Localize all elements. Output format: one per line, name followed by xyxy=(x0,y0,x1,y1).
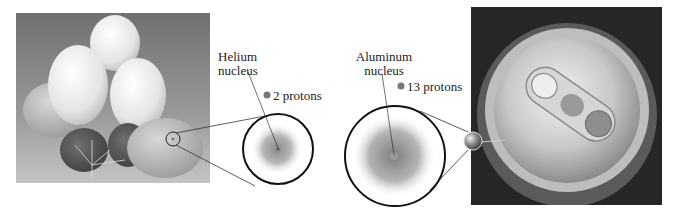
aluminum-label-line2: nucleus xyxy=(352,64,416,78)
diagram-canvas xyxy=(0,0,678,221)
helium-label-line2: nucleus xyxy=(218,64,258,78)
aluminum-label-line1: Aluminum xyxy=(352,50,416,64)
helium-label: Helium nucleus xyxy=(218,50,258,78)
atom-sphere-icon xyxy=(464,132,482,150)
helium-protons-text: 2 protons xyxy=(273,89,322,103)
can-photo xyxy=(471,7,662,207)
proton-legend-dot-aluminum xyxy=(398,83,405,90)
balloons-photo xyxy=(16,13,210,183)
proton-legend-dot-helium xyxy=(264,92,271,99)
aluminum-label: Aluminum nucleus xyxy=(352,50,416,78)
aluminum-protons-text: 13 protons xyxy=(407,80,462,94)
helium-label-line1: Helium xyxy=(218,50,258,64)
